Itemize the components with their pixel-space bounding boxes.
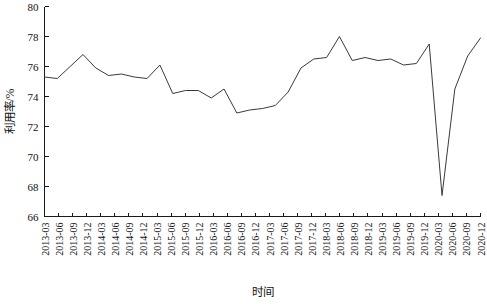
- x-tick-label-2017-03: 2017-03: [265, 223, 276, 256]
- x-tick-label-2015-03: 2015-03: [152, 223, 163, 256]
- y-tick-label-80: 80: [28, 1, 40, 13]
- y-axis-title: 利用率/%: [3, 88, 16, 134]
- x-tick-label-2020-06: 2020-06: [447, 223, 458, 256]
- y-tick-label-78: 78: [28, 31, 40, 43]
- x-tick-label-2015-06: 2015-06: [166, 223, 177, 256]
- x-tick-label-2016-03: 2016-03: [208, 223, 219, 256]
- x-tick-label-2015-09: 2015-09: [180, 223, 191, 256]
- x-tick-label-2013-09: 2013-09: [68, 223, 79, 256]
- x-tick-label-2015-12: 2015-12: [194, 223, 205, 256]
- x-tick-label-2019-03: 2019-03: [377, 223, 388, 256]
- x-tick-label-2016-09: 2016-09: [236, 223, 247, 256]
- x-axis-title: 时间: [252, 286, 274, 298]
- y-tick-label-66: 66: [28, 211, 40, 223]
- x-tick-label-2018-03: 2018-03: [321, 223, 332, 256]
- x-tick-label-2020-12: 2020-12: [476, 223, 487, 256]
- y-tick-label-70: 70: [28, 151, 40, 163]
- x-tick-label-2018-06: 2018-06: [335, 223, 346, 256]
- x-tick-label-2014-03: 2014-03: [96, 223, 107, 256]
- x-tick-label-2017-09: 2017-09: [293, 223, 304, 256]
- x-tick-label-2018-09: 2018-09: [349, 223, 360, 256]
- x-tick-label-2014-09: 2014-09: [124, 223, 135, 256]
- x-tick-label-2018-12: 2018-12: [363, 223, 374, 256]
- x-tick-label-2014-12: 2014-12: [138, 223, 149, 256]
- x-tick-label-2019-12: 2019-12: [419, 223, 430, 256]
- y-tick-label-76: 76: [28, 61, 40, 73]
- x-tick-label-2017-12: 2017-12: [307, 223, 318, 256]
- x-tick-label-2016-06: 2016-06: [222, 223, 233, 256]
- x-tick-label-2013-12: 2013-12: [82, 223, 93, 256]
- chart-canvas: 6668707274767880 2013-032013-062013-0920…: [0, 0, 487, 304]
- y-tick-label-72: 72: [28, 121, 39, 133]
- x-tick-label-2017-06: 2017-06: [279, 223, 290, 256]
- x-tick-label-2013-03: 2013-03: [40, 223, 51, 256]
- y-tick-label-74: 74: [28, 91, 40, 103]
- line-chart: 6668707274767880 2013-032013-062013-0920…: [0, 0, 487, 304]
- x-tick-label-2013-06: 2013-06: [54, 223, 65, 256]
- x-tick-label-2019-06: 2019-06: [391, 223, 402, 256]
- x-tick-label-2016-12: 2016-12: [250, 223, 261, 256]
- x-tick-label-2019-09: 2019-09: [405, 223, 416, 256]
- y-tick-label-68: 68: [28, 181, 40, 193]
- x-tick-label-2020-03: 2020-03: [433, 223, 444, 256]
- chart-background: [0, 0, 487, 304]
- x-tick-label-2020-09: 2020-09: [461, 223, 472, 256]
- x-tick-label-2014-06: 2014-06: [110, 223, 121, 256]
